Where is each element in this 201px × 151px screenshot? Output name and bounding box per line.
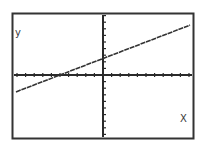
graph-plot: y X (0, 0, 201, 151)
y-axis-label: y (15, 27, 21, 38)
graph-panel: y X (0, 0, 201, 151)
x-axis-label: X (180, 113, 187, 124)
